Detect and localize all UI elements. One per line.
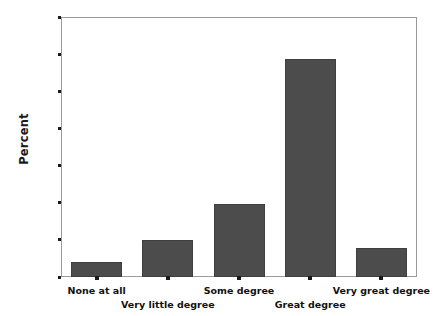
x-axis-tick-label: Great degree bbox=[275, 299, 346, 310]
x-axis-tick-label: Very great degree bbox=[333, 285, 430, 296]
x-axis-tick-label: Very little degree bbox=[121, 299, 215, 310]
x-axis-tick-label: None at all bbox=[68, 285, 126, 296]
x-axis-tick-mark bbox=[237, 276, 241, 280]
bar bbox=[285, 59, 336, 277]
x-axis-tick-mark bbox=[379, 276, 383, 280]
bar bbox=[71, 262, 122, 277]
bar bbox=[142, 240, 193, 277]
bars-layer bbox=[61, 17, 417, 277]
y-axis-title: Percent bbox=[14, 0, 34, 277]
bar bbox=[214, 204, 265, 277]
y-axis-title-text: Percent bbox=[17, 113, 31, 165]
x-axis-tick-label: Some degree bbox=[204, 285, 275, 296]
x-axis-tick-mark bbox=[95, 276, 99, 280]
x-axis-tick-mark bbox=[308, 276, 312, 280]
bar bbox=[356, 248, 407, 277]
x-axis-tick-mark bbox=[166, 276, 170, 280]
bar-chart: Percent 010203040506070 None at allVery … bbox=[0, 0, 438, 316]
